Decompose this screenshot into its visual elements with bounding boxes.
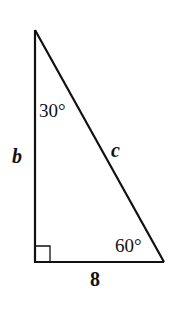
side-c-label: c <box>111 140 120 160</box>
right-angle-marker <box>35 246 50 262</box>
triangle-figure <box>0 0 174 309</box>
right-triangle-diagram: 30° 60° b c 8 <box>0 0 174 309</box>
hypotenuse-line <box>35 30 164 262</box>
side-base-label: 8 <box>90 269 100 289</box>
angle-bottom-right-label: 60° <box>115 236 142 255</box>
angle-top-label: 30° <box>39 101 66 120</box>
side-b-label: b <box>12 146 22 166</box>
